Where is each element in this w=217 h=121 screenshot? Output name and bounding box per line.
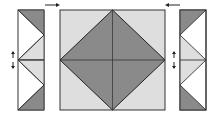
left-fold-arrow-icon	[11, 51, 15, 69]
left-strip	[18, 10, 44, 110]
right-strip	[180, 10, 206, 110]
top-right-arrow-icon	[165, 3, 180, 7]
top-left-arrow-icon	[45, 3, 60, 7]
folding-diagram	[0, 0, 217, 121]
main-square	[60, 10, 165, 110]
right-fold-arrow-icon	[172, 51, 176, 69]
